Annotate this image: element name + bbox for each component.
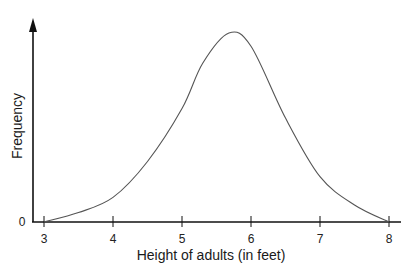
x-tick-label: 4 (110, 232, 117, 246)
x-axis-tick-labels: 345678 (41, 232, 393, 246)
x-tick-label: 5 (179, 232, 186, 246)
x-tick-label: 6 (248, 232, 255, 246)
frequency-chart: 345678 0 Height of adults (in feet) Freq… (0, 0, 416, 275)
frequency-curve (44, 32, 389, 222)
y-axis-arrow-icon (29, 18, 37, 32)
x-tick-label: 7 (317, 232, 324, 246)
y-axis-title: Frequency (9, 93, 25, 159)
x-tick-label: 3 (41, 232, 48, 246)
x-tick-label: 8 (386, 232, 393, 246)
x-axis-title: Height of adults (in feet) (137, 247, 286, 263)
y-zero-label: 0 (19, 215, 26, 229)
